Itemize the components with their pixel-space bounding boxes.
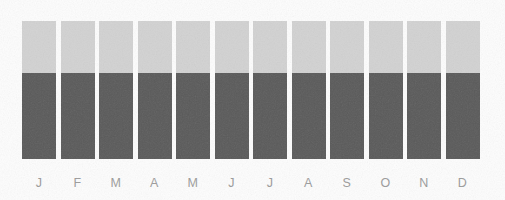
x-axis-tick-label: M	[99, 172, 133, 194]
bar-column[interactable]	[99, 21, 133, 159]
bar-segment-upper	[22, 21, 56, 73]
x-axis-tick-label: A	[292, 172, 326, 194]
bar-segment-upper	[446, 21, 480, 73]
bar-segment-upper	[176, 21, 210, 73]
bar-column[interactable]	[138, 21, 172, 159]
bar-column[interactable]	[292, 21, 326, 159]
x-axis-tick-label: J	[215, 172, 249, 194]
bar-segment-lower	[446, 73, 480, 159]
bar-segment-upper	[253, 21, 287, 73]
bar-segment-upper	[215, 21, 249, 73]
bar-column[interactable]	[407, 21, 441, 159]
bar-column[interactable]	[369, 21, 403, 159]
x-axis-tick-label: A	[138, 172, 172, 194]
x-axis-tick-label: O	[369, 172, 403, 194]
plot-area	[22, 21, 484, 159]
bar-segment-lower	[138, 73, 172, 159]
bar-segment-lower	[99, 73, 133, 159]
x-axis-tick-label: D	[446, 172, 480, 194]
bar-segment-upper	[138, 21, 172, 73]
x-axis-tick-label: N	[407, 172, 441, 194]
x-axis-tick-label: S	[330, 172, 364, 194]
bar-segment-lower	[176, 73, 210, 159]
bar-segment-upper	[99, 21, 133, 73]
x-axis-tick-label: M	[176, 172, 210, 194]
x-axis-tick-label: F	[61, 172, 95, 194]
bar-column[interactable]	[446, 21, 480, 159]
bar-column[interactable]	[22, 21, 56, 159]
bar-segment-lower	[253, 73, 287, 159]
bar-segment-upper	[407, 21, 441, 73]
bar-column[interactable]	[253, 21, 287, 159]
bar-segment-lower	[215, 73, 249, 159]
bar-segment-lower	[369, 73, 403, 159]
bar-segment-upper	[61, 21, 95, 73]
bar-segment-lower	[22, 73, 56, 159]
bar-column[interactable]	[61, 21, 95, 159]
bar-segment-upper	[330, 21, 364, 73]
bar-segment-lower	[330, 73, 364, 159]
x-axis-tick-label: J	[22, 172, 56, 194]
bar-segment-upper	[369, 21, 403, 73]
bar-column[interactable]	[176, 21, 210, 159]
bar-column[interactable]	[215, 21, 249, 159]
x-axis-tick-label: J	[253, 172, 287, 194]
bar-segment-lower	[407, 73, 441, 159]
bar-column[interactable]	[330, 21, 364, 159]
bar-segment-upper	[292, 21, 326, 73]
stacked-bar-chart: JFMAMJJASOND	[0, 0, 505, 200]
bar-segment-lower	[292, 73, 326, 159]
x-axis-labels: JFMAMJJASOND	[22, 172, 484, 194]
bar-segment-lower	[61, 73, 95, 159]
